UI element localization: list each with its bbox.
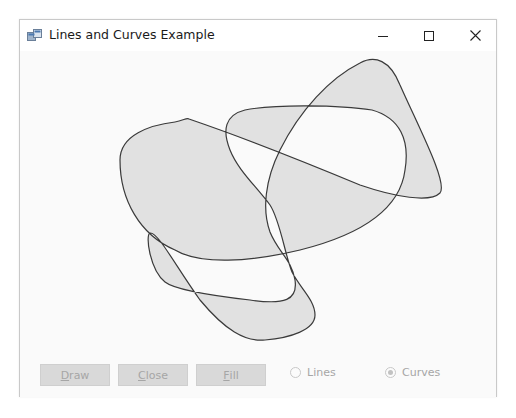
lines-radio-indicator[interactable] <box>290 367 301 378</box>
curves-radio-indicator[interactable] <box>385 367 396 378</box>
fill-button-label: ill <box>230 369 239 382</box>
maximize-button[interactable] <box>406 20 452 51</box>
drawing-canvas <box>20 51 498 397</box>
lines-radio[interactable]: Lines <box>290 366 336 379</box>
close-button[interactable]: Close <box>118 364 188 386</box>
close-button-label: lose <box>146 369 168 382</box>
form-client-area: Draw Close Fill Lines Curves <box>20 51 496 397</box>
close-icon <box>470 30 481 41</box>
maximize-icon <box>424 31 434 41</box>
minimize-button[interactable] <box>360 20 406 51</box>
fill-button[interactable]: Fill <box>196 364 266 386</box>
curves-radio[interactable]: Curves <box>385 366 440 379</box>
app-window: Lines and Curves Example Draw Close Fill <box>19 19 497 397</box>
draw-button-label: raw <box>69 369 89 382</box>
curves-radio-label: Curves <box>402 366 440 379</box>
title-bar[interactable]: Lines and Curves Example <box>20 20 496 51</box>
form-icon <box>27 29 42 42</box>
lines-radio-label: Lines <box>307 366 336 379</box>
draw-button[interactable]: Draw <box>40 364 110 386</box>
minimize-icon <box>378 31 388 41</box>
closed-curve-shape <box>120 59 441 340</box>
window-title: Lines and Curves Example <box>49 27 215 42</box>
close-button-mnemonic: C <box>138 369 146 382</box>
draw-button-mnemonic: D <box>61 369 69 382</box>
close-window-button[interactable] <box>452 20 498 51</box>
